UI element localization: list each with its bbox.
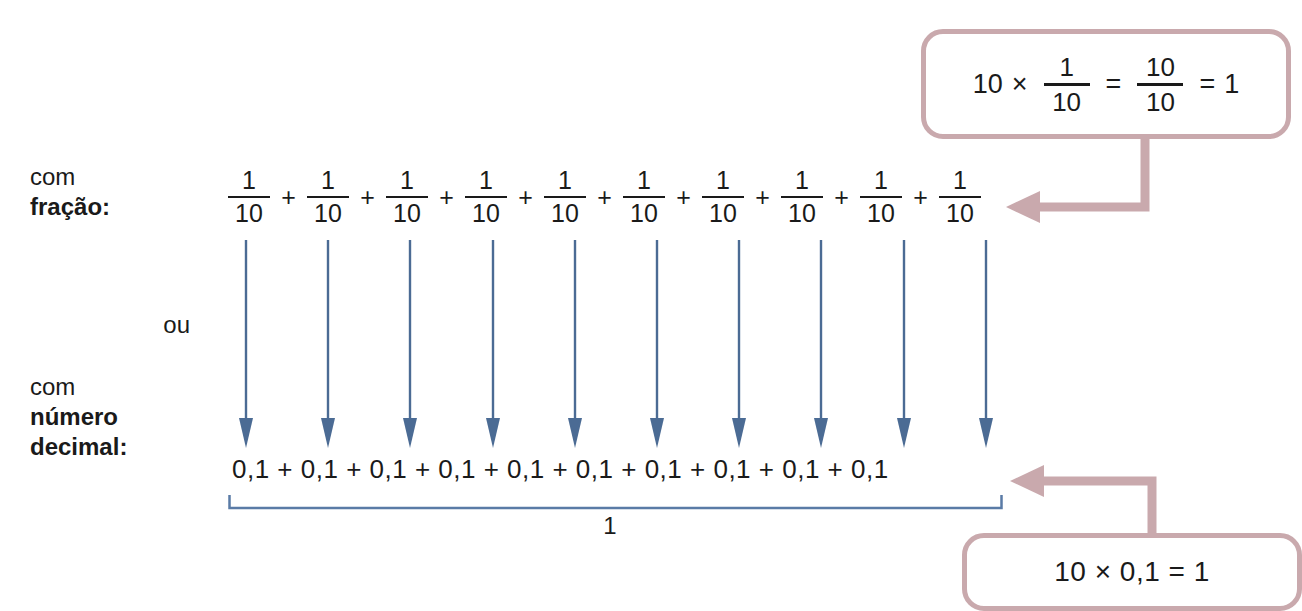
plus-sign: + — [746, 183, 779, 212]
fraction-numerator: 1 — [953, 168, 967, 196]
blue-down-arrow-icon — [897, 240, 911, 450]
plus-sign: + — [272, 183, 305, 212]
label-ou: ou — [30, 310, 190, 340]
plus-sign: + — [588, 183, 621, 212]
fraction-term: 110 — [463, 168, 509, 226]
fraction-numerator: 1 — [795, 168, 809, 196]
fraction-numerator: 1 — [874, 168, 888, 196]
fraction-term: 110 — [779, 168, 825, 226]
label-com-fracao-line1: com — [30, 162, 110, 192]
fraction-term: 110 — [858, 168, 904, 226]
blue-down-arrow-icon — [403, 240, 417, 450]
fraction-eq-multiplier: 10 — [973, 69, 1003, 100]
callout-fraction-equation: 10 × 1 10 = 10 10 = 1 — [921, 29, 1291, 139]
fraction-eq-result: 1 — [1224, 69, 1239, 100]
plus-sign: + — [904, 183, 937, 212]
blue-down-arrow-icon — [650, 240, 664, 450]
plus-sign: + — [667, 183, 700, 212]
fraction-denominator: 10 — [472, 198, 500, 226]
callout-decimal-equation: 10 × 0,1 = 1 — [962, 533, 1302, 611]
fraction-term: 110 — [937, 168, 983, 226]
fraction-numerator: 1 — [321, 168, 335, 196]
blue-down-arrow-icon — [568, 240, 582, 450]
fraction-denominator: 10 — [551, 198, 579, 226]
fraction-eq-operand: 1 10 — [1044, 54, 1090, 115]
fraction-term: 110 — [226, 168, 272, 226]
blue-down-arrow-icon — [814, 240, 828, 450]
fraction-numerator: 1 — [242, 168, 256, 196]
fraction-numerator: 1 — [479, 168, 493, 196]
fraction-numerator: 1 — [558, 168, 572, 196]
fraction-term: 110 — [384, 168, 430, 226]
blue-down-arrow-icon — [979, 240, 993, 450]
fraction-denominator: 10 — [709, 198, 737, 226]
label-decimal-line3: decimal: — [30, 432, 127, 462]
plus-sign: + — [825, 183, 858, 212]
blue-down-arrow-icon — [486, 240, 500, 450]
plus-sign: + — [509, 183, 542, 212]
label-com-fracao: com fração: — [30, 162, 110, 222]
plus-sign: + — [430, 183, 463, 212]
fraction-eq-product: 10 10 — [1137, 54, 1183, 115]
fraction-denominator: 10 — [314, 198, 342, 226]
fraction-eq-product-numerator: 10 — [1146, 54, 1175, 83]
fraction-eq-product-denominator: 10 — [1146, 86, 1175, 115]
fraction-denominator: 10 — [788, 198, 816, 226]
fraction-eq-operand-denominator: 10 — [1052, 86, 1081, 115]
fraction-denominator: 10 — [235, 198, 263, 226]
connector-decimal-callout — [1010, 465, 1152, 533]
label-com-numero-decimal: com número decimal: — [30, 372, 127, 462]
equals-sign-2: = — [1199, 69, 1215, 100]
fraction-numerator: 1 — [716, 168, 730, 196]
blue-down-arrow-icon — [732, 240, 746, 450]
multiplication-sign-icon: × — [1012, 69, 1028, 100]
fraction-numerator: 1 — [400, 168, 414, 196]
fraction-term: 110 — [542, 168, 588, 226]
decimal-expression-row: 0,1 + 0,1 + 0,1 + 0,1 + 0,1 + 0,1 + 0,1 … — [232, 452, 889, 486]
connector-fraction-callout — [1006, 139, 1145, 223]
fraction-expression-row: 110+110+110+110+110+110+110+110+110+110 — [226, 158, 983, 236]
fraction-equation: 10 × 1 10 = 10 10 = 1 — [973, 54, 1239, 115]
blue-down-arrow-icon — [239, 240, 253, 450]
label-decimal-line1: com — [30, 372, 127, 402]
plus-sign: + — [351, 183, 384, 212]
fraction-denominator: 10 — [867, 198, 895, 226]
blue-down-arrow-icon — [321, 240, 335, 450]
fraction-eq-operand-numerator: 1 — [1059, 54, 1073, 83]
fraction-term: 110 — [700, 168, 746, 226]
fraction-denominator: 10 — [393, 198, 421, 226]
label-com-fracao-line2: fração: — [30, 192, 110, 222]
decimal-equation: 10 × 0,1 = 1 — [1054, 556, 1209, 588]
label-decimal-line2: número — [30, 402, 127, 432]
brace-total-value: 1 — [560, 512, 660, 540]
fraction-numerator: 1 — [637, 168, 651, 196]
equals-sign-1: = — [1106, 69, 1122, 100]
fraction-denominator: 10 — [946, 198, 974, 226]
fraction-denominator: 10 — [630, 198, 658, 226]
fraction-term: 110 — [305, 168, 351, 226]
fraction-term: 110 — [621, 168, 667, 226]
